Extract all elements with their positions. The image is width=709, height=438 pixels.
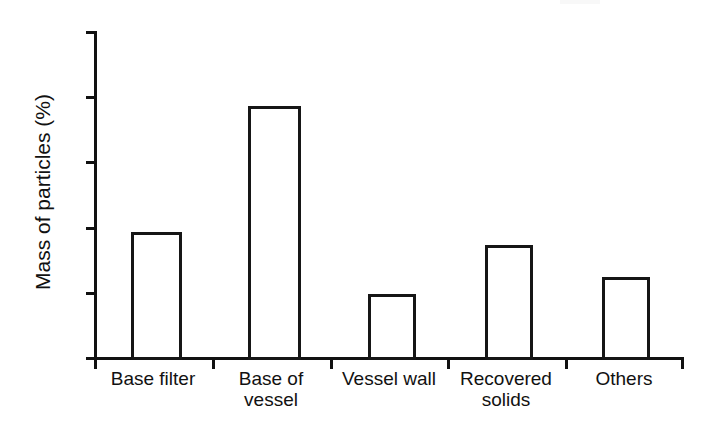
y-axis-line — [94, 31, 97, 360]
bar-base-of-vessel — [248, 106, 301, 360]
x-category-line: Base filter — [93, 368, 213, 389]
x-category-label-base-of-vessel: Base of vessel — [211, 368, 331, 411]
bar-recovered-solids — [485, 245, 533, 360]
scan-artifact — [560, 0, 600, 4]
x-category-line: vessel — [211, 389, 331, 410]
bar-others — [602, 277, 650, 360]
x-category-line: Vessel wall — [329, 368, 449, 389]
x-category-label-base-filter: Base filter — [93, 368, 213, 389]
bar-chart-figure: Mass of particles (%) 50 40 30 20 10 0 B… — [0, 0, 709, 438]
x-category-line: Recovered — [446, 368, 566, 389]
x-category-line: solids — [446, 389, 566, 410]
bar-vessel-wall — [368, 294, 416, 360]
x-category-line: Others — [564, 368, 684, 389]
bar-base-filter — [131, 232, 182, 360]
y-axis-title: Mass of particles (%) — [31, 27, 55, 357]
x-category-line: Base of — [211, 368, 331, 389]
x-category-label-recovered-solids: Recovered solids — [446, 368, 566, 411]
x-category-label-others: Others — [564, 368, 684, 389]
x-category-label-vessel-wall: Vessel wall — [329, 368, 449, 389]
